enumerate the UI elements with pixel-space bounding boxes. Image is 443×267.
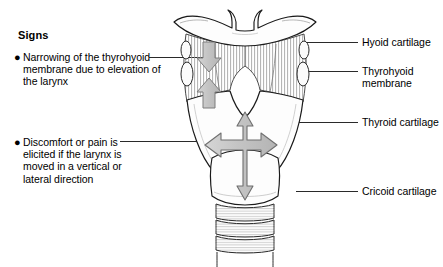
sign-bullet-1: ● Narrowing of the thyrohyoid membrane d… xyxy=(14,51,164,88)
sign-bullet-2-text: Discomfort or pain is elicited if the la… xyxy=(23,136,134,185)
bullet-marker: ● xyxy=(14,136,21,148)
bullet-marker: ● xyxy=(14,51,21,63)
sign-bullet-1-text: Narrowing of the thyrohyoid membrane due… xyxy=(23,51,164,88)
larynx-anterior-view-figure xyxy=(170,0,320,267)
panel-heading: Signs xyxy=(18,29,48,41)
label-thyroid-cartilage: Thyroid cartilage xyxy=(362,116,439,128)
sign-bullet-2: ● Discomfort or pain is elicited if the … xyxy=(14,136,134,185)
label-cricoid-cartilage: Cricoid cartilage xyxy=(362,185,436,197)
label-thyrohyoid-membrane: Thyrohyoid membrane xyxy=(362,65,413,89)
illustration-page: Signs ● Narrowing of the thyrohyoid memb… xyxy=(0,0,443,267)
tracheal-rings-structure xyxy=(216,204,274,267)
label-hyoid-cartilage: Hyoid cartilage xyxy=(362,36,431,48)
